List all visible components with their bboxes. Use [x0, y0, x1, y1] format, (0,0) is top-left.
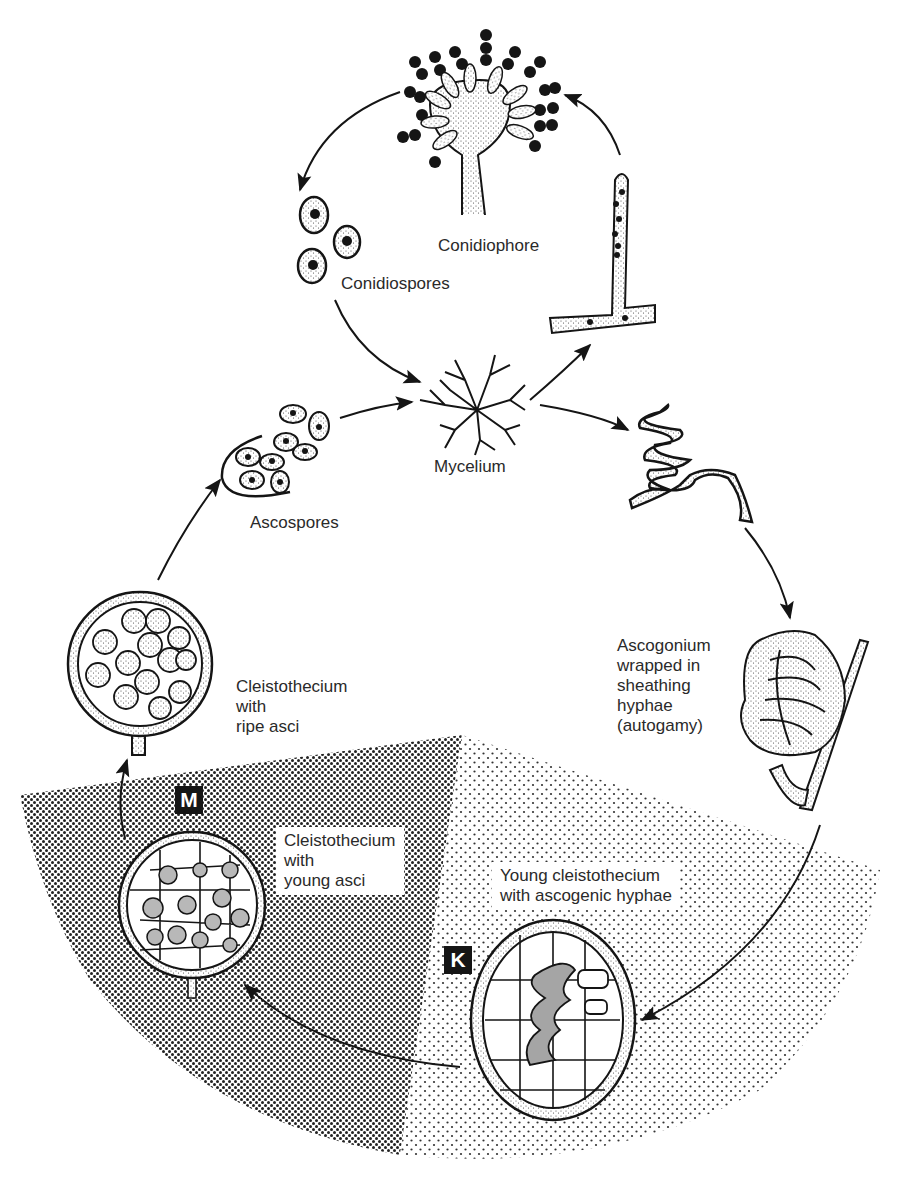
arrow-conidiospores-to-mycelium [335, 300, 420, 382]
label-cleistothecium-young-asci: Cleistothecium with young asci [276, 827, 404, 895]
arrow-mycelium-to-hypha [530, 345, 590, 400]
stage-marker-k: K [444, 946, 472, 974]
label-young-cleistothecium: Young cleistothecium with ascogenic hyph… [492, 862, 680, 910]
branch-hypha-illustration [550, 174, 655, 333]
arrow-coil-to-ascogonium [745, 528, 790, 618]
label-ascospores: Ascospores [250, 513, 339, 533]
ascospores-illustration [222, 405, 329, 496]
arrow-to-conidiospores [300, 92, 400, 190]
mycelium-illustration [420, 355, 525, 455]
cleistothecium-ripe-illustration [68, 592, 212, 755]
life-cycle-diagram: Conidiophore Conidiospores Mycelium Asco… [0, 0, 908, 1185]
arrow-mycelium-to-coil [540, 405, 628, 430]
ascogonium-illustration [741, 631, 868, 810]
arrow-hypha-to-conidiophore [565, 95, 620, 155]
conidiospores-illustration [298, 197, 360, 283]
label-ascogonium: Ascogonium wrapped in sheathing hyphae (… [617, 636, 711, 736]
diagram-canvas [0, 0, 908, 1185]
label-conidiospores: Conidiospores [341, 274, 450, 294]
young-cleistothecium-illustration [471, 920, 635, 1120]
arrow-ripe-to-ascospores [158, 480, 220, 580]
label-cleistothecium-ripe: Cleistothecium with ripe asci [236, 677, 348, 737]
label-conidiophore: Conidiophore [438, 236, 539, 256]
stage-marker-m: M [175, 786, 203, 814]
coiled-hypha-illustration [630, 405, 752, 522]
label-mycelium: Mycelium [434, 457, 506, 477]
arrow-ascospores-to-mycelium [340, 402, 412, 418]
conidiophore-illustration [397, 29, 561, 215]
